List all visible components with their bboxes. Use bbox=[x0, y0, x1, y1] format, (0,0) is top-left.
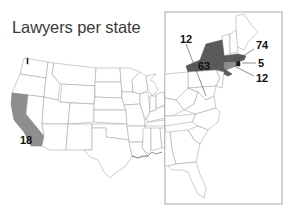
label-california: 18 bbox=[20, 134, 32, 146]
state-south-dakota bbox=[95, 82, 122, 98]
state-ohio bbox=[156, 92, 165, 108]
state-nebraska bbox=[94, 97, 126, 110]
state-north-dakota bbox=[95, 68, 121, 82]
label-connecticut: 12 bbox=[256, 72, 268, 84]
state-arizona bbox=[42, 124, 68, 150]
state-rhode-island[interactable] bbox=[236, 61, 240, 66]
us-map: 18 63 74 5 12 12 bbox=[0, 0, 290, 212]
state-arkansas bbox=[127, 126, 145, 142]
state-pennsylvania bbox=[188, 70, 220, 88]
label-massachusetts: 74 bbox=[256, 39, 269, 51]
state-colorado bbox=[68, 103, 94, 124]
state-indiana bbox=[150, 96, 156, 112]
label-rhode-island: 5 bbox=[258, 57, 264, 69]
state-kansas bbox=[94, 110, 127, 124]
label-maryland: 12 bbox=[180, 33, 192, 45]
puget-sound-icon bbox=[27, 58, 28, 64]
main-map bbox=[11, 58, 165, 178]
label-new-york: 63 bbox=[198, 60, 210, 72]
state-montana bbox=[52, 63, 96, 86]
state-wyoming bbox=[60, 84, 95, 104]
state-new-mexico bbox=[66, 124, 92, 150]
state-iowa bbox=[122, 92, 140, 105]
